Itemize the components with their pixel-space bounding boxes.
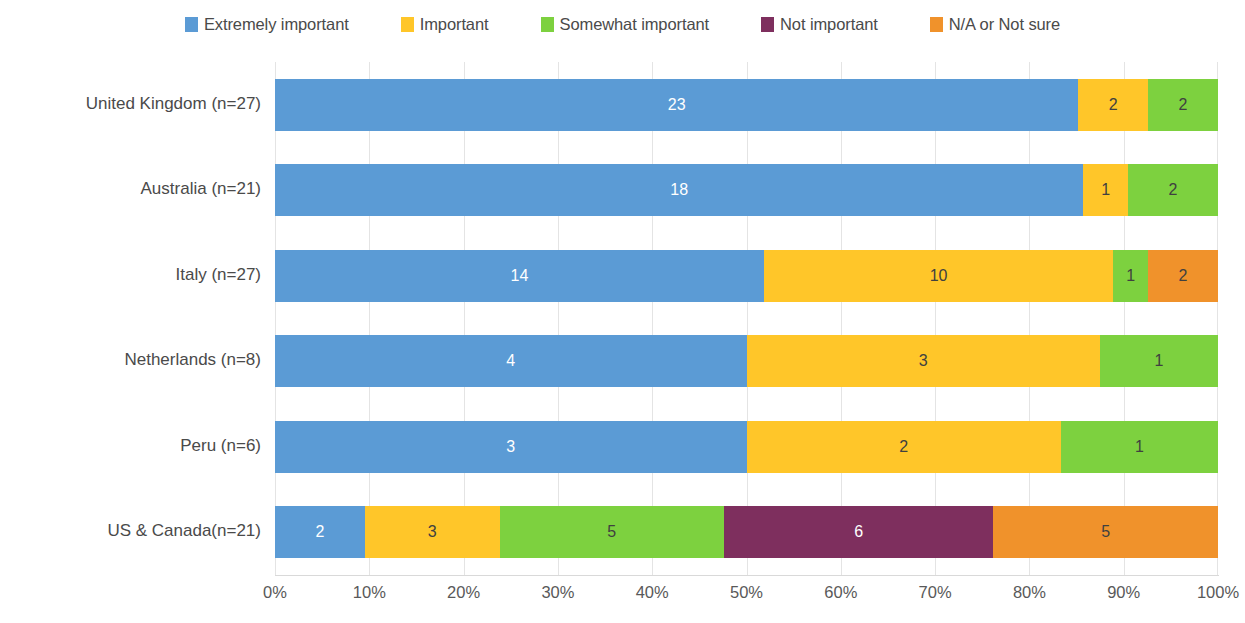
bar-segment-value-label: 1 — [1135, 438, 1144, 456]
stacked-bar-row: 141012 — [275, 250, 1218, 302]
legend-swatch-icon — [541, 17, 554, 32]
x-axis-tick-label: 70% — [919, 583, 952, 602]
legend-item-label: Not important — [780, 15, 878, 34]
legend-item-label: N/A or Not sure — [949, 15, 1060, 34]
y-axis-category-label: Peru (n=6) — [3, 436, 261, 456]
bar-segment[interactable]: 18 — [275, 164, 1083, 216]
bar-segment[interactable]: 5 — [993, 506, 1218, 558]
stacked-bar-row: 2322 — [275, 79, 1218, 131]
x-axis-tick-label: 20% — [447, 583, 480, 602]
x-axis-tick-label: 90% — [1107, 583, 1140, 602]
bar-segment-value-label: 23 — [668, 96, 686, 114]
bar-segment-value-label: 2 — [1179, 96, 1188, 114]
bar-segment[interactable]: 2 — [747, 421, 1061, 473]
bar-segment-value-label: 1 — [1155, 352, 1164, 370]
bar-segment-value-label: 10 — [930, 267, 948, 285]
y-axis-category-label: Italy (n=27) — [3, 265, 261, 285]
gridline — [1124, 62, 1125, 575]
x-axis-tick-labels: 0%10%20%30%40%50%60%70%80%90%100% — [275, 583, 1218, 613]
y-axis-category-label: US & Canada(n=21) — [3, 521, 261, 541]
bar-segment[interactable]: 2 — [275, 506, 365, 558]
plot-area: 2322181214101243132123565 — [275, 62, 1218, 575]
x-axis-baseline — [275, 575, 1219, 576]
bar-segment[interactable]: 1 — [1083, 164, 1128, 216]
bar-segment-value-label: 18 — [670, 181, 688, 199]
bar-segment[interactable]: 4 — [275, 335, 747, 387]
x-axis-tick-label: 60% — [824, 583, 857, 602]
stacked-bar-row: 431 — [275, 335, 1218, 387]
legend-item[interactable]: Important — [401, 15, 489, 34]
gridline — [1217, 62, 1218, 575]
x-axis-tick-label: 10% — [353, 583, 386, 602]
bar-segment[interactable]: 1 — [1100, 335, 1218, 387]
bar-segment[interactable]: 1 — [1061, 421, 1218, 473]
y-axis-category-label: United Kingdom (n=27) — [3, 94, 261, 114]
bar-segment[interactable]: 5 — [500, 506, 725, 558]
gridline — [464, 62, 465, 575]
bar-segment[interactable]: 3 — [747, 335, 1101, 387]
bar-segment-value-label: 6 — [854, 523, 863, 541]
bar-segment-value-label: 3 — [506, 438, 515, 456]
bar-segment-value-label: 5 — [607, 523, 616, 541]
legend-item[interactable]: N/A or Not sure — [930, 15, 1060, 34]
y-axis-category-label: Netherlands (n=8) — [3, 350, 261, 370]
bar-segment-value-label: 2 — [1169, 181, 1178, 199]
gridline — [841, 62, 842, 575]
gridline — [558, 62, 559, 575]
legend-item-label: Somewhat important — [560, 15, 710, 34]
stacked-bar-row: 321 — [275, 421, 1218, 473]
bar-segment[interactable]: 6 — [724, 506, 993, 558]
x-axis-tick-label: 0% — [263, 583, 287, 602]
gridline — [935, 62, 936, 575]
bar-segment-value-label: 2 — [1109, 96, 1118, 114]
bar-segment[interactable]: 14 — [275, 250, 764, 302]
bar-segment[interactable]: 3 — [365, 506, 500, 558]
bar-segment[interactable]: 23 — [275, 79, 1078, 131]
bar-segment-value-label: 2 — [1179, 267, 1188, 285]
gridline — [369, 62, 370, 575]
x-axis-tick-label: 100% — [1197, 583, 1239, 602]
bar-segment[interactable]: 3 — [275, 421, 747, 473]
gridline — [1029, 62, 1030, 575]
bar-segment-value-label: 1 — [1126, 267, 1135, 285]
legend-swatch-icon — [761, 17, 774, 32]
stacked-bar-row: 23565 — [275, 506, 1218, 558]
gridline — [275, 62, 276, 575]
stacked-bar-row: 1812 — [275, 164, 1218, 216]
bar-segment[interactable]: 2 — [1128, 164, 1218, 216]
x-axis-tick-label: 50% — [730, 583, 763, 602]
legend-swatch-icon — [401, 17, 414, 32]
bar-segment[interactable]: 1 — [1113, 250, 1148, 302]
gridline — [747, 62, 748, 575]
bar-segment-value-label: 5 — [1101, 523, 1110, 541]
y-axis-category-label: Australia (n=21) — [3, 179, 261, 199]
x-axis-tick-label: 80% — [1013, 583, 1046, 602]
bar-segment-value-label: 2 — [315, 523, 324, 541]
bar-segment[interactable]: 2 — [1078, 79, 1148, 131]
x-axis-tick-label: 40% — [636, 583, 669, 602]
chart-legend: Extremely importantImportantSomewhat imp… — [0, 0, 1245, 48]
y-axis-category-labels: United Kingdom (n=27)Australia (n=21)Ita… — [0, 62, 261, 575]
bar-segment-value-label: 3 — [919, 352, 928, 370]
bar-segment[interactable]: 10 — [764, 250, 1113, 302]
bar-segment-value-label: 4 — [506, 352, 515, 370]
bar-segment-value-label: 2 — [899, 438, 908, 456]
legend-swatch-icon — [185, 17, 198, 32]
bar-segment[interactable]: 2 — [1148, 250, 1218, 302]
legend-item[interactable]: Extremely important — [185, 15, 349, 34]
legend-swatch-icon — [930, 17, 943, 32]
legend-item[interactable]: Not important — [761, 15, 878, 34]
bar-segment-value-label: 3 — [428, 523, 437, 541]
bar-segment[interactable]: 2 — [1148, 79, 1218, 131]
bar-segment-value-label: 14 — [511, 267, 529, 285]
legend-item-label: Important — [420, 15, 489, 34]
legend-item-label: Extremely important — [204, 15, 349, 34]
x-axis-tick-label: 30% — [541, 583, 574, 602]
bar-segment-value-label: 1 — [1101, 181, 1110, 199]
legend-item[interactable]: Somewhat important — [541, 15, 710, 34]
gridline — [652, 62, 653, 575]
